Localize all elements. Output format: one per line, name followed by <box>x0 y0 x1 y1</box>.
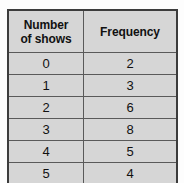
table-row: 2 6 <box>8 97 177 119</box>
cell-frequency: 3 <box>84 75 178 97</box>
cell-frequency: 6 <box>84 97 178 119</box>
table-header-row: Number of shows Frequency <box>8 10 177 53</box>
cell-number-of-shows: 3 <box>8 119 84 141</box>
table-row: 0 2 <box>8 53 177 75</box>
table-row: 1 3 <box>8 75 177 97</box>
cell-frequency: 4 <box>84 163 178 184</box>
table-row: 4 5 <box>8 141 177 163</box>
table-row: 5 4 <box>8 163 177 184</box>
cell-number-of-shows: 1 <box>8 75 84 97</box>
cell-frequency: 8 <box>84 119 178 141</box>
column-header-line-1: Number <box>9 18 83 32</box>
table-row: 3 8 <box>8 119 177 141</box>
cell-frequency: 2 <box>84 53 178 75</box>
cell-number-of-shows: 4 <box>8 141 84 163</box>
column-header-number-of-shows: Number of shows <box>8 10 84 53</box>
screenshot-stage: Number of shows Frequency 0 2 1 3 2 6 3 … <box>0 0 184 183</box>
frequency-table: Number of shows Frequency 0 2 1 3 2 6 3 … <box>7 9 178 183</box>
table-body: 0 2 1 3 2 6 3 8 4 5 5 4 <box>8 53 177 184</box>
cell-number-of-shows: 0 <box>8 53 84 75</box>
cell-number-of-shows: 2 <box>8 97 84 119</box>
cell-frequency: 5 <box>84 141 178 163</box>
table-header: Number of shows Frequency <box>8 10 177 53</box>
column-header-line-2: of shows <box>9 32 83 46</box>
cell-number-of-shows: 5 <box>8 163 84 184</box>
column-header-frequency: Frequency <box>84 10 178 53</box>
